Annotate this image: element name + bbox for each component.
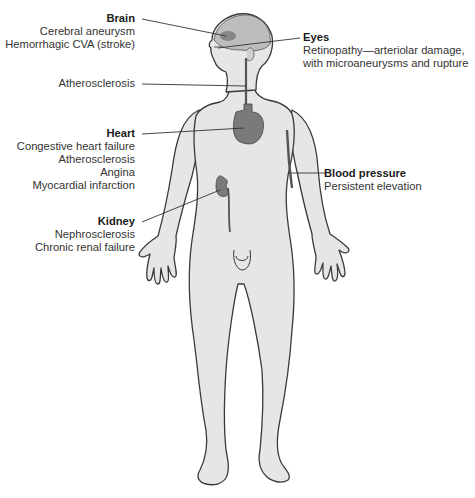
brain-leader bbox=[142, 19, 226, 36]
ear bbox=[247, 48, 254, 61]
heart-item: Angina bbox=[17, 166, 135, 179]
torso-and-legs bbox=[189, 88, 294, 485]
brain-label: Brain Cerebral aneurysm Hemorrhagic CVA … bbox=[5, 12, 135, 51]
heart-item: Myocardial infarction bbox=[17, 179, 135, 192]
blood-pressure-label: Blood pressure Persistent elevation bbox=[324, 167, 422, 193]
eyes-label: Eyes Retinopathy—arteriolar damage, with… bbox=[303, 31, 468, 70]
kidney-item: Nephrosclerosis bbox=[35, 228, 135, 241]
eyes-title: Eyes bbox=[303, 31, 468, 44]
heart-item: Congestive heart failure bbox=[17, 140, 135, 153]
vessels-label: Atherosclerosis bbox=[59, 77, 135, 90]
brain-item: Cerebral aneurysm bbox=[5, 25, 135, 38]
heart-label: Heart Congestive heart failure Atheroscl… bbox=[17, 127, 135, 192]
kidney-label: Kidney Nephrosclerosis Chronic renal fai… bbox=[35, 215, 135, 254]
eyes-item: Retinopathy—arteriolar damage, bbox=[303, 44, 468, 57]
left-arm bbox=[289, 110, 349, 281]
eyes-item: with microaneurysms and rupture bbox=[303, 57, 468, 70]
heart-title: Heart bbox=[17, 127, 135, 140]
kidney-title: Kidney bbox=[35, 215, 135, 228]
brain-lesion bbox=[220, 31, 236, 41]
kidney-item: Chronic renal failure bbox=[35, 241, 135, 254]
blood-pressure-title: Blood pressure bbox=[324, 167, 422, 180]
brain-title: Brain bbox=[5, 12, 135, 25]
heart-item: Atherosclerosis bbox=[17, 153, 135, 166]
blood-pressure-item: Persistent elevation bbox=[324, 180, 422, 193]
vessels-item: Atherosclerosis bbox=[59, 77, 135, 90]
brain-item: Hemorrhagic CVA (stroke) bbox=[5, 38, 135, 51]
